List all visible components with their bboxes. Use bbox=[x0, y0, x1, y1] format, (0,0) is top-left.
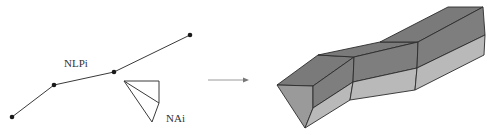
arrow-head bbox=[243, 78, 249, 83]
polyline-nlpi bbox=[10, 33, 193, 120]
polyline-vertex bbox=[188, 33, 193, 38]
polyline-vertex bbox=[112, 70, 117, 75]
profile-outline bbox=[124, 81, 159, 122]
polyline-label: NLPi bbox=[64, 57, 88, 69]
profile-nai bbox=[124, 81, 159, 122]
polyline-vertex bbox=[52, 83, 57, 88]
arrow-icon bbox=[208, 78, 249, 83]
polyline-vertex bbox=[10, 115, 15, 120]
polyline-path bbox=[12, 35, 190, 117]
profile-label: NAi bbox=[166, 112, 185, 124]
diagram-canvas: NLPi NAi bbox=[0, 0, 491, 135]
extruded-prism bbox=[277, 7, 485, 128]
profile-diagonal bbox=[124, 81, 159, 103]
